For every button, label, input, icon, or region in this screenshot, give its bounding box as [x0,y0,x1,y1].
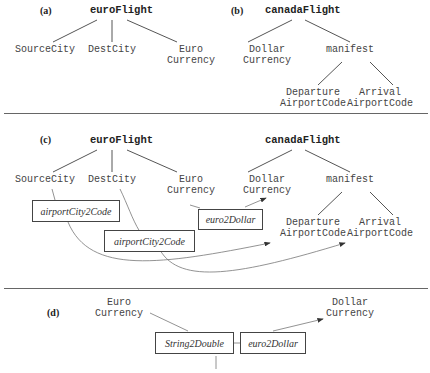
sourcecity-node: SourceCity [15,44,75,55]
destcity-node: DestCity [88,44,136,55]
c-dollarcurrency-node: Dollar Currency [243,174,291,196]
airportcity2code-box-2: airportCity2Code [104,230,195,252]
c-sourcecity-node: SourceCity [15,174,75,185]
manifest-node: manifest [326,44,374,55]
c-eurocurrency-node: Euro Currency [167,174,215,196]
euro2dollar-box-d: euro2Dollar [240,332,306,354]
euro2dollar-box-c: euro2Dollar [198,209,263,230]
panel-d-label: (d) [47,307,59,318]
string2double-box: String2Double [155,332,234,354]
canadaflight-root: canadaFlight [265,4,341,16]
dollarcurrency-node: Dollar Currency [243,44,291,66]
d-dollarcurrency-node: Dollar Currency [326,297,374,319]
c-canadaflight-root: canadaFlight [265,134,341,146]
d-eurocurrency-node: Euro Currency [95,297,143,319]
arrival-airportcode-node: Arrival AirportCode [347,87,413,109]
panel-b-label: (b) [231,5,243,16]
c-manifest-node: manifest [326,174,374,185]
c-arrival-airportcode-node: Arrival AirportCode [347,217,413,239]
panel-a-label: (a) [40,5,52,16]
c-euroflight-root: euroFlight [90,134,153,146]
schema-mapping-diagram: (a) euroFlight SourceCity DestCity Euro … [0,0,430,373]
c-destcity-node: DestCity [88,174,136,185]
eurocurrency-node: Euro Currency [167,44,215,66]
panel-c-label: (c) [40,134,51,145]
airportcity2code-box-1: airportCity2Code [32,200,120,222]
divider-1 [4,113,428,114]
euroflight-root: euroFlight [90,4,153,16]
c-departure-airportcode-node: Departure AirportCode [280,217,346,239]
departure-airportcode-node: Departure AirportCode [280,87,346,109]
divider-2 [4,288,428,289]
